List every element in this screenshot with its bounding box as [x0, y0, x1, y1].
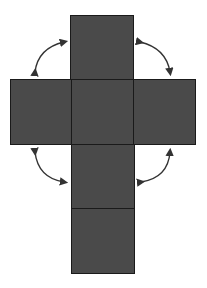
fold-arrow-top-right-icon [140, 42, 170, 72]
fold-arrow-top-left-icon [35, 42, 64, 72]
fold-arrows [0, 0, 207, 288]
fold-arrow-lower-left-icon [35, 152, 64, 182]
fold-arrow-lower-right-icon [141, 152, 170, 182]
